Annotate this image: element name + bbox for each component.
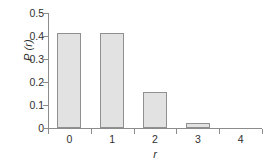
y-tick-label: 0.1: [14, 100, 44, 110]
x-tick-label: 0: [54, 133, 84, 145]
y-axis-spine: [48, 13, 49, 129]
bar: [57, 33, 81, 128]
bar: [100, 33, 124, 128]
x-tick-label: 1: [97, 133, 127, 145]
y-tick-label: 0.5: [14, 8, 44, 18]
y-tick-mark: [43, 13, 48, 14]
y-tick-label: 0.2: [14, 77, 44, 87]
y-tick-mark: [43, 36, 48, 37]
bar: [186, 123, 210, 128]
x-tick-label: 2: [140, 133, 170, 145]
bar: [143, 92, 167, 128]
x-tick-label: 4: [226, 133, 256, 145]
y-tick-label: 0.4: [14, 31, 44, 41]
x-axis-title: r: [48, 148, 262, 160]
y-tick-label: 0.3: [14, 54, 44, 64]
bar-chart: P (r) 0.50.40.30.20.10 01234 r: [0, 0, 274, 166]
x-tick-mark: [262, 129, 263, 134]
y-tick-mark: [43, 105, 48, 106]
y-tick-mark: [43, 82, 48, 83]
y-tick-mark: [43, 59, 48, 60]
x-axis-tick-labels: 01234: [48, 133, 262, 149]
y-tick-label: 0: [14, 123, 44, 133]
y-axis-tick-labels: 0.50.40.30.20.10: [14, 0, 44, 166]
x-tick-label: 3: [183, 133, 213, 145]
plot-area: [48, 13, 262, 128]
x-axis-spine: [43, 128, 262, 129]
